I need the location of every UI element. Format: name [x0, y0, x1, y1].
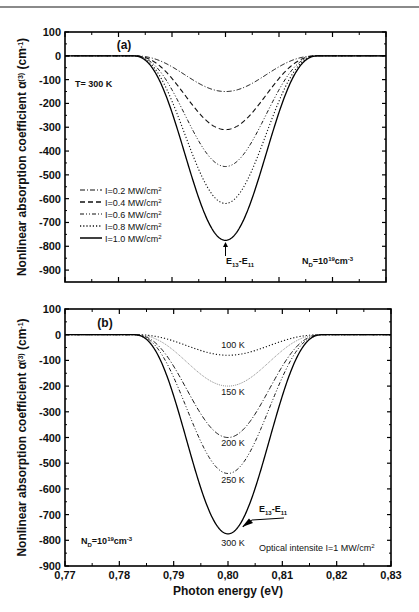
- y-tick-label: -100: [39, 354, 61, 366]
- legend-entry: I=0.4 MW/cm2: [105, 198, 162, 208]
- intensity-label: Optical intensite I=1 MW/cm2: [259, 543, 375, 553]
- x-tick-label: 0,77: [54, 569, 75, 581]
- y-tick-label: 0: [55, 50, 61, 62]
- panel-label-b: (b): [97, 316, 112, 330]
- curve-label: 300 K: [221, 538, 245, 548]
- legend-entry: I=0.6 MW/cm2: [105, 210, 162, 220]
- y-tick-label: -200: [39, 97, 61, 109]
- curve-label: 250 K: [221, 475, 245, 485]
- y-tick-label: -500: [39, 457, 61, 469]
- y-tick-label: -700: [39, 216, 61, 228]
- curves: [65, 335, 391, 534]
- series-curve: [65, 56, 386, 92]
- y-tick-label: -400: [39, 432, 61, 444]
- y-tick-label: -200: [39, 380, 61, 392]
- y-tick-label: -100: [39, 74, 61, 86]
- y-tick-label: -700: [39, 509, 61, 521]
- y-axis-title: Nonlinear absorption coefficient α(3) (c…: [15, 318, 29, 556]
- y-tick-label: -500: [39, 169, 61, 181]
- y-tick-label: -600: [39, 483, 61, 495]
- legend-entry: I=1.0 MW/cm2: [105, 234, 162, 244]
- transition-label: E13-E11: [259, 504, 288, 516]
- x-tick-label: 0,80: [217, 569, 238, 581]
- curve-label: 150 K: [221, 387, 245, 397]
- y-tick-label: 100: [43, 303, 61, 315]
- temperature-label: T= 300 K: [75, 79, 113, 89]
- x-tick-label: 0,79: [163, 569, 184, 581]
- x-tick-label: 0,81: [272, 569, 293, 581]
- series-curve: [65, 56, 386, 204]
- y-tick-label: -300: [39, 406, 61, 418]
- curve-label: 100 K: [221, 340, 245, 350]
- y-tick-label: -600: [39, 193, 61, 205]
- figure: 1000-100-200-300-400-500-600-700-800-900…: [0, 0, 419, 612]
- series-curve: [65, 56, 386, 167]
- x-tick-label: 0,82: [326, 569, 347, 581]
- panel-label-a: (a): [117, 38, 132, 52]
- doping-label: ND=1019cm-3: [81, 536, 133, 548]
- x-tick-label: 0,83: [380, 569, 401, 581]
- y-tick-label: -800: [39, 240, 61, 252]
- transition-label: E13-E11: [226, 256, 255, 268]
- y-tick-label: -400: [39, 145, 61, 157]
- curve-label: 200 K: [221, 438, 245, 448]
- x-axis-title: Photon energy (eV): [173, 584, 283, 598]
- panel-a: 1000-100-200-300-400-500-600-700-800-900…: [15, 26, 386, 282]
- x-tick-label: 0,78: [109, 569, 130, 581]
- y-tick-label: 100: [43, 26, 61, 38]
- series-curve: [65, 56, 386, 130]
- legend-entry: I=0.2 MW/cm2: [105, 186, 162, 196]
- y-tick-label: -300: [39, 121, 61, 133]
- y-axis-title: Nonlinear absorption coefficient α(3) (c…: [15, 38, 29, 276]
- doping-label: ND=1019cm-3: [302, 256, 354, 268]
- y-axis: 1000-100-200-300-400-500-600-700-800-900: [39, 303, 391, 572]
- legend: I=0.2 MW/cm2I=0.4 MW/cm2I=0.6 MW/cm2I=0.…: [80, 186, 162, 244]
- y-tick-label: 0: [55, 329, 61, 341]
- y-tick-label: -800: [39, 534, 61, 546]
- series-curve: [65, 335, 391, 474]
- legend-entry: I=0.8 MW/cm2: [105, 222, 162, 232]
- panel-b: 1000-100-200-300-400-500-600-700-800-900…: [15, 303, 402, 581]
- arrow-up-icon: [223, 242, 228, 247]
- series-curve: [65, 335, 391, 534]
- y-tick-label: -900: [39, 264, 61, 276]
